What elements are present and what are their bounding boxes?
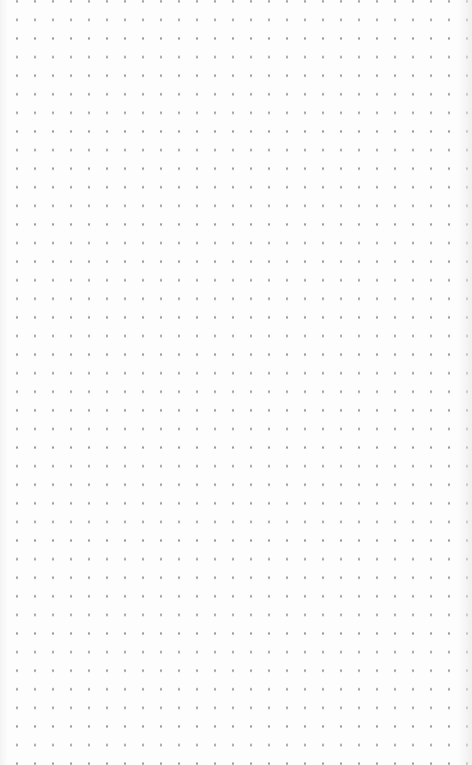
dot-grid-canvas[interactable] (0, 0, 472, 765)
